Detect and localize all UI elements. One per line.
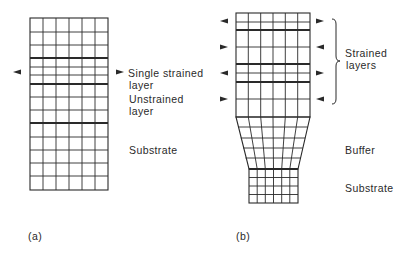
arrow-right-icon: [316, 19, 324, 24]
grid-a: [30, 18, 108, 190]
arrow-right-icon: [220, 97, 228, 102]
arrows-b-right: [316, 19, 324, 102]
label-buffer: Buffer: [345, 144, 375, 156]
label-unstrained-layer-line2: layer: [129, 105, 154, 117]
grid-b-substrate: [249, 169, 298, 203]
arrow-left-icon: [316, 97, 324, 102]
grid-b-buffer: [236, 117, 310, 169]
label-substrate-b: Substrate: [345, 182, 394, 194]
arrow-left-icon: [316, 45, 324, 50]
arrow-right-icon: [220, 45, 228, 50]
arrow-right-icon: [116, 70, 124, 75]
label-strained-layers-line1: Strained: [345, 47, 387, 59]
label-single-strained-layer-line1: Single strained: [128, 67, 203, 79]
arrow-left-icon: [13, 70, 21, 75]
curly-brace-icon: [332, 19, 340, 104]
arrows-b-left: [220, 19, 228, 102]
diagram-canvas: [0, 0, 404, 253]
label-strained-layers-line2: layers: [346, 59, 376, 71]
arrow-right-icon: [316, 71, 324, 76]
arrow-left-icon: [220, 19, 228, 24]
label-single-strained-layer-line2: layer: [129, 79, 154, 91]
caption-a: (a): [28, 230, 42, 242]
arrow-left-icon: [220, 71, 228, 76]
grid-b-strained: [236, 13, 310, 117]
label-substrate-a: Substrate: [129, 144, 178, 156]
label-unstrained-layer-line1: Unstrained: [129, 93, 184, 105]
caption-b: (b): [236, 230, 250, 242]
